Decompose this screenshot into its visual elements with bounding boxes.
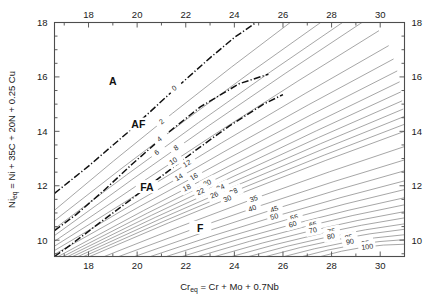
- ferrite-number-diagram: 2468101214161820222426283035404550556065…: [0, 0, 435, 306]
- y-tick-label-right-18: 18: [412, 17, 423, 28]
- x-tick-label-bottom-24: 24: [229, 260, 240, 271]
- region-label-fa: FA: [140, 181, 154, 193]
- x-tick-label-top-30: 30: [375, 9, 386, 20]
- x-tick-label-bottom-18: 18: [83, 260, 94, 271]
- y-tick-label-right-10: 10: [412, 235, 423, 246]
- fn-contour-2: [55, 23, 291, 211]
- fn-contour-16: [55, 71, 398, 254]
- fn-label-90: 90: [345, 236, 354, 246]
- phase-boundary-lines: [55, 23, 283, 257]
- x-tick-label-bottom-22: 22: [180, 260, 191, 271]
- x-tick-label-bottom-28: 28: [326, 260, 337, 271]
- region-label-af: AF: [131, 118, 146, 130]
- x-tick-label-top-22: 22: [180, 9, 191, 20]
- x-tick-label-top-28: 28: [326, 9, 337, 20]
- y-tick-label-right-14: 14: [412, 126, 423, 137]
- y-tick-label-left-16: 16: [37, 71, 48, 82]
- x-tick-label-top-20: 20: [132, 9, 143, 20]
- fn-contour-lines: [55, 23, 405, 257]
- x-tick-label-top-24: 24: [229, 9, 240, 20]
- fn-label-100: 100: [361, 241, 374, 251]
- chart-canvas: 2468101214161820222426283035404550556065…: [0, 0, 435, 306]
- y-axis-title: Nieq = Ni + 35C + 20N + 0.25 Cu: [6, 71, 19, 208]
- x-tick-label-top-18: 18: [83, 9, 94, 20]
- x-tick-label-bottom-20: 20: [132, 260, 143, 271]
- y-tick-label-left-14: 14: [37, 126, 48, 137]
- y-tick-label-right-16: 16: [412, 71, 423, 82]
- x-axis-title: Creq = Cr + Mo + 0.7Nb: [180, 281, 279, 294]
- y-tick-label-left-12: 12: [37, 180, 48, 191]
- y-tick-label-left-10: 10: [37, 235, 48, 246]
- x-tick-label-bottom-26: 26: [278, 260, 289, 271]
- region-label-f: F: [197, 222, 204, 234]
- region-label-a: A: [109, 75, 117, 87]
- x-tick-label-top-26: 26: [278, 9, 289, 20]
- x-tick-label-bottom-30: 30: [375, 260, 386, 271]
- fn-contour-14: [55, 59, 394, 251]
- y-tick-label-right-12: 12: [412, 180, 423, 191]
- fn-contour-8: [55, 23, 362, 236]
- y-tick-label-left-18: 18: [37, 17, 48, 28]
